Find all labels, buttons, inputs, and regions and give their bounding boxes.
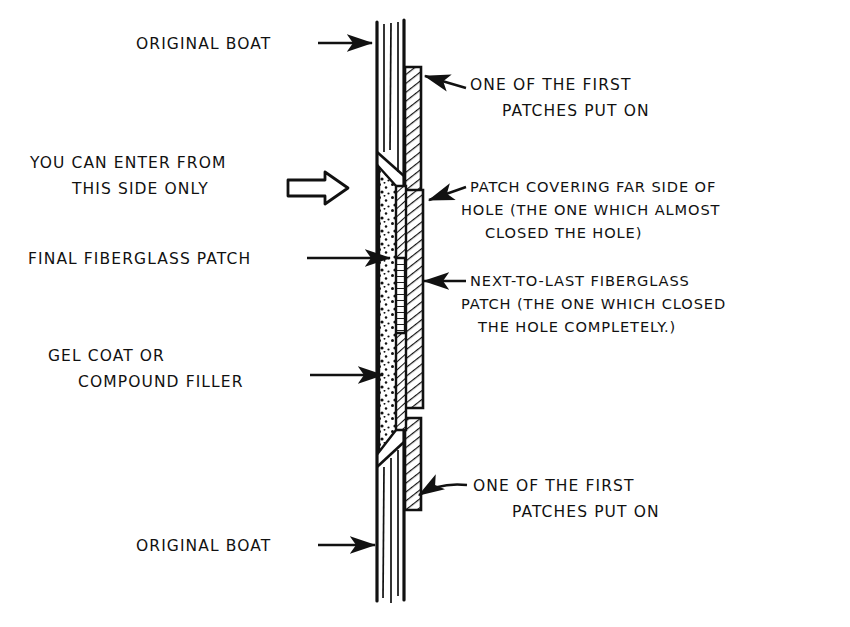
- annotation-patch-far-side: PATCH COVERING FAR SIDE OF HOLE (THE ONE…: [461, 178, 720, 241]
- annotation-final-fiberglass-patch: FINAL FIBERGLASS PATCH: [28, 250, 251, 268]
- leader-first-patches-bottom: [419, 484, 467, 495]
- first-patches-top-line-1: ONE OF THE FIRST: [470, 76, 632, 94]
- annotation-next-to-last-patch: NEXT-TO-LAST FIBERGLASS PATCH (THE ONE W…: [461, 272, 726, 335]
- original-boat-bottom-line-1: ORIGINAL BOAT: [136, 537, 271, 555]
- first-patches-bottom-line-1: ONE OF THE FIRST: [473, 477, 635, 495]
- next-to-last-line-1: NEXT-TO-LAST FIBERGLASS: [470, 272, 690, 289]
- block-arrow-right-icon: [288, 172, 348, 204]
- original-boat-top-line-1: ORIGINAL BOAT: [136, 35, 271, 53]
- annotation-original-boat-top: ORIGINAL BOAT: [136, 35, 271, 53]
- first-patches-bottom-line-2: PATCHES PUT ON: [512, 503, 660, 521]
- leader-first-patches-top: [425, 76, 466, 88]
- annotation-enter-from-side: YOU CAN ENTER FROM THIS SIDE ONLY: [29, 154, 226, 198]
- patch-covering-far-side-of-hole: [405, 190, 423, 408]
- patch-far-side-line-1: PATCH COVERING FAR SIDE OF: [470, 178, 716, 195]
- enter-from-side-line-1: YOU CAN ENTER FROM: [29, 154, 226, 172]
- leader-patch-far-side: [429, 187, 466, 200]
- diagram-canvas: ORIGINAL BOAT ONE OF THE FIRST PATCHES P…: [0, 0, 850, 627]
- patch-far-side-line-2: HOLE (THE ONE WHICH ALMOST: [461, 201, 720, 218]
- final-patch-line-1: FINAL FIBERGLASS PATCH: [28, 250, 251, 268]
- first-patches-top-line-2: PATCHES PUT ON: [502, 102, 650, 120]
- next-to-last-line-3: THE HOLE COMPLETELY.): [477, 318, 676, 335]
- next-to-last-line-2: PATCH (THE ONE WHICH CLOSED: [461, 295, 726, 312]
- patch-far-side-line-3: CLOSED THE HOLE): [485, 224, 642, 241]
- annotation-gel-coat-filler: GEL COAT OR COMPOUND FILLER: [48, 347, 244, 391]
- fiberglass-patch-diagram: ORIGINAL BOAT ONE OF THE FIRST PATCHES P…: [0, 0, 850, 627]
- annotation-first-patches-bottom: ONE OF THE FIRST PATCHES PUT ON: [473, 477, 660, 521]
- enter-from-side-line-2: THIS SIDE ONLY: [71, 180, 209, 198]
- gel-coat-line-2: COMPOUND FILLER: [78, 373, 244, 391]
- annotation-original-boat-bottom: ORIGINAL BOAT: [136, 537, 271, 555]
- annotation-first-patches-top: ONE OF THE FIRST PATCHES PUT ON: [470, 76, 650, 120]
- gel-coat-line-1: GEL COAT OR: [48, 347, 165, 365]
- gel-coat-compound-filler-stipple: [379, 167, 396, 452]
